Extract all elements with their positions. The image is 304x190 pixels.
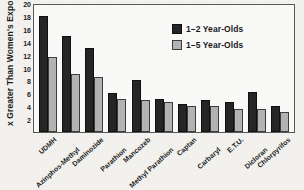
bar (248, 92, 257, 132)
x-axis-tick: UDMH (37, 136, 57, 155)
bar (187, 106, 196, 132)
y-axis-tick-labels: 2468101214161820 (16, 0, 31, 137)
bar (201, 100, 210, 132)
bar (164, 102, 173, 132)
bar-group (106, 5, 129, 132)
y-axis-tick: 12 (23, 52, 31, 59)
bar (155, 99, 164, 132)
bar (62, 36, 71, 132)
legend-item: 1–5 Year-Olds (172, 40, 243, 50)
bar (71, 74, 80, 132)
y-axis-tick: 14 (23, 39, 31, 46)
y-axis-tick: 8 (27, 78, 31, 85)
bar (48, 57, 57, 132)
bar (117, 99, 126, 132)
bar-groups (34, 5, 294, 132)
y-axis-title: x Greater Than Women's Exposure (5, 0, 15, 126)
bar-group (129, 5, 152, 132)
legend-item-label: 1–2 Year-Olds (186, 24, 243, 34)
plot-area (33, 4, 295, 133)
y-axis-tick: 2 (27, 117, 31, 124)
bar (225, 102, 234, 132)
bar (39, 16, 48, 132)
bar-group (269, 5, 292, 132)
bar-group (36, 5, 59, 132)
bar (234, 109, 243, 132)
bar (108, 93, 117, 132)
legend: 1–2 Year-Olds 1–5 Year-Olds (172, 24, 243, 56)
bar (178, 104, 187, 132)
y-axis-tick: 4 (27, 104, 31, 111)
legend-swatch-icon (172, 40, 182, 50)
x-axis-tick-labels: UDMHAzinphos-MethylDaminozideParathionMa… (33, 134, 295, 190)
bar (85, 48, 94, 132)
y-axis-tick: 16 (23, 26, 31, 33)
y-axis-tick: 10 (23, 65, 31, 72)
legend-item-label: 1–5 Year-Olds (186, 40, 243, 50)
bar (141, 100, 150, 132)
x-axis-tick: Captan (176, 136, 198, 157)
bar (132, 80, 141, 132)
legend-item: 1–2 Year-Olds (172, 24, 243, 34)
bar-group (83, 5, 106, 132)
bar (280, 112, 289, 132)
bar-chart: x Greater Than Women's Exposure 24681012… (0, 0, 304, 190)
legend-swatch-icon (172, 24, 182, 34)
y-axis-tick: 6 (27, 91, 31, 98)
y-axis-tick: 18 (23, 13, 31, 20)
bar (94, 77, 103, 132)
bar-group (245, 5, 268, 132)
x-axis-tick: Carbaryl (196, 146, 222, 170)
bar (257, 109, 266, 132)
bar-group (59, 5, 82, 132)
y-axis-tick: 20 (23, 1, 31, 8)
bar (271, 106, 280, 132)
x-axis-tick: E.T.U. (226, 136, 245, 154)
bar (210, 106, 219, 132)
